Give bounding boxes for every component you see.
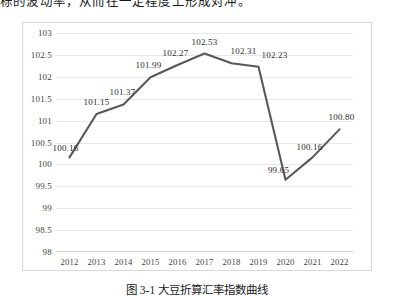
x-axis-tick-label: 2017	[196, 257, 214, 267]
data-point-label: 100.80	[329, 112, 355, 122]
y-axis-tick-label: 100	[38, 159, 52, 169]
x-axis-tick-label: 2014	[115, 257, 133, 267]
y-axis-tick-label: 100.5	[31, 138, 52, 148]
data-point-label: 102.23	[262, 50, 288, 60]
data-point-label: 101.99	[136, 60, 162, 70]
data-point-label: 102.53	[192, 37, 218, 47]
y-axis-tick-label: 99.5	[35, 181, 52, 191]
x-axis-tick-label: 2015	[142, 257, 160, 267]
data-point-label: 101.37	[110, 87, 136, 97]
x-axis-tick-label: 2012	[61, 257, 79, 267]
series-polyline	[70, 54, 340, 180]
y-axis-tick-label: 102	[38, 72, 52, 82]
chart-frame: 103102.5102101.5101100.510099.59998.598 …	[22, 22, 372, 271]
data-point-label: 99.65	[268, 165, 289, 175]
x-axis-tick-label: 2013	[88, 257, 106, 267]
figure-caption: 图 3-1 大豆折算汇率指数曲线	[0, 281, 394, 296]
data-point-label: 100.16	[53, 143, 79, 153]
x-axis-tick-label: 2016	[169, 257, 187, 267]
y-axis-tick-label: 103	[38, 28, 52, 38]
y-axis-tick-label: 101	[38, 116, 52, 126]
data-point-label: 102.31	[231, 46, 257, 56]
x-axis-tick-label: 2022	[331, 257, 349, 267]
data-point-label: 101.15	[84, 97, 110, 107]
x-axis-tick-label: 2019	[250, 257, 268, 267]
y-axis-tick-label: 99	[43, 203, 52, 213]
x-axis-tick-label: 2020	[277, 257, 295, 267]
body-text-above-figure: 标的波动率，从而在一定程度上形成对冲。	[0, 0, 394, 9]
y-axis-tick-label: 102.5	[31, 50, 52, 60]
y-axis-tick-label: 98.5	[35, 225, 52, 235]
data-point-label: 100.16	[297, 142, 323, 152]
y-axis-tick-label: 101.5	[31, 94, 52, 104]
x-axis-tick-label: 2018	[223, 257, 241, 267]
data-point-label: 102.27	[163, 48, 189, 58]
plot-area: 103102.5102101.5101100.510099.59998.598 …	[56, 33, 362, 252]
y-axis-tick-label: 98	[43, 247, 52, 257]
x-axis-tick-label: 2021	[304, 257, 322, 267]
